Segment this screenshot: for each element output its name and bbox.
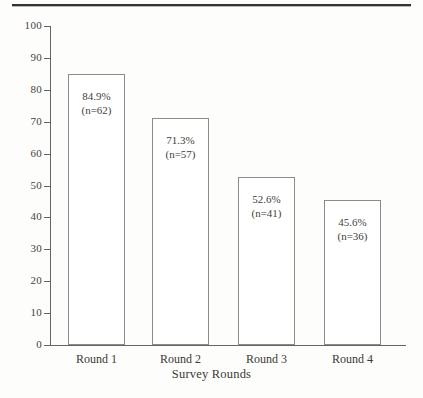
bar-percent-4: 45.6%	[312, 215, 393, 229]
y-axis-tick	[44, 26, 50, 27]
chart-page: 1009080706050403020100 84.9%(n=62)71.3%(…	[0, 0, 423, 398]
bar-value-label-3: 52.6%(n=41)	[226, 192, 307, 220]
y-axis-tick	[44, 345, 50, 346]
bar-count-3: (n=41)	[226, 206, 307, 220]
bar-value-label-4: 45.6%(n=36)	[312, 215, 393, 243]
bar-chart-plot-area: 1009080706050403020100 84.9%(n=62)71.3%(…	[0, 0, 423, 398]
y-axis-tick-label: 30	[30, 243, 42, 254]
bar-percent-1: 84.9%	[56, 89, 137, 103]
y-axis-tick	[44, 249, 50, 250]
x-axis-title: Survey Rounds	[0, 367, 423, 382]
bar-value-label-2: 71.3%(n=57)	[140, 133, 221, 161]
bar-percent-3: 52.6%	[226, 192, 307, 206]
bar-value-label-1: 84.9%(n=62)	[56, 89, 137, 117]
bar-count-1: (n=62)	[56, 103, 137, 117]
y-axis-tick	[44, 122, 50, 123]
bar-count-4: (n=36)	[312, 229, 393, 243]
y-axis-tick-label: 50	[30, 180, 42, 191]
bar-count-2: (n=57)	[140, 147, 221, 161]
y-axis-tick	[44, 90, 50, 91]
y-axis-tick	[44, 313, 50, 314]
y-axis-tick-label: 10	[30, 307, 42, 318]
x-axis-line	[50, 345, 406, 346]
x-axis-label-4: Round 4	[302, 352, 403, 367]
y-axis-tick	[44, 154, 50, 155]
y-axis-tick	[44, 58, 50, 59]
y-axis-tick-label: 70	[30, 116, 42, 127]
y-axis-tick-label: 40	[30, 211, 42, 222]
y-axis-tick-label: 90	[30, 52, 42, 63]
y-axis-tick	[44, 281, 50, 282]
y-axis-tick-label: 0	[36, 339, 42, 350]
bar-percent-2: 71.3%	[140, 133, 221, 147]
y-axis-tick	[44, 186, 50, 187]
y-axis-tick-label: 20	[30, 275, 42, 286]
y-axis-tick-label: 100	[25, 20, 42, 31]
y-axis-tick-label: 60	[30, 148, 42, 159]
y-axis-line	[50, 26, 51, 346]
y-axis-tick-label: 80	[30, 84, 42, 95]
y-axis-tick	[44, 217, 50, 218]
